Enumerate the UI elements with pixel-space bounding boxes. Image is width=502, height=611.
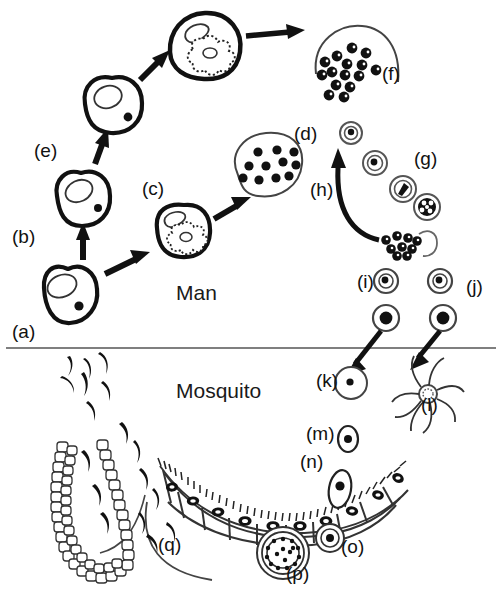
schizont-rbc — [414, 194, 440, 220]
arrow-schizont-to-merozoites-f — [246, 24, 305, 39]
stage-label-j: (j) — [466, 276, 483, 297]
liver-cell-e — [85, 77, 142, 133]
stage-label-c: (c) — [142, 178, 164, 199]
trophozoite-rbc — [363, 151, 387, 175]
erythrocytic-cycle-g — [340, 122, 440, 220]
stage-label-q: (q) — [158, 534, 181, 555]
salivary-gland — [51, 440, 134, 583]
merozoites-released-d — [235, 133, 302, 197]
arrow-a-to-c — [105, 250, 150, 274]
liver-schizont-top — [170, 13, 240, 79]
arrow-e-to-schizont — [140, 50, 170, 80]
stage-label-f: (f) — [382, 63, 400, 84]
ookinete-m — [338, 426, 358, 452]
stage-label-p: (p) — [286, 563, 309, 584]
host-label-mosquito: Mosquito — [176, 379, 261, 402]
gametocytes-group — [373, 269, 456, 331]
stage-label-e: (e) — [34, 140, 57, 161]
stage-label-d: (d) — [294, 123, 317, 144]
stage-label-l: (l) — [421, 394, 438, 415]
arrow-c-to-d — [214, 197, 251, 219]
stage-label-b: (b) — [12, 226, 35, 247]
stage-label-g: (g) — [414, 148, 437, 169]
liver-cell-b — [57, 172, 111, 226]
schizont-liver-cell-c — [157, 205, 210, 257]
malaria-life-cycle-figure: Man Mosquito (a) (b) (c) (d) (e) (f) (g)… — [0, 0, 502, 611]
stage-label-a: (a) — [12, 321, 35, 342]
merozoite-cluster-h — [381, 231, 437, 261]
merozoite-dots-f — [317, 43, 382, 103]
macrogametocyte-i-lower — [373, 305, 399, 331]
stage-label-o: (o) — [341, 536, 364, 557]
stage-label-n: (n) — [300, 451, 323, 472]
young-oocyst-o — [316, 524, 344, 552]
stage-label-i: (i) — [357, 271, 374, 292]
stage-label-k: (k) — [316, 370, 338, 391]
figure-canvas: Man Mosquito (a) (b) (c) (d) (e) (f) (g)… — [0, 0, 502, 611]
microgametocyte-j-upper — [428, 269, 452, 293]
macrogamete-k — [335, 367, 367, 399]
ring-stage-rbc — [340, 122, 362, 144]
host-label-man: Man — [176, 281, 217, 304]
macrogametocyte-i-upper — [374, 269, 398, 293]
merozoite-dots-d — [238, 145, 300, 184]
stage-label-m: (m) — [306, 423, 334, 444]
microgametocyte-j-lower — [430, 305, 456, 331]
infected-liver-cell-a — [44, 267, 97, 323]
penetrating-ookinete — [326, 468, 354, 509]
stage-label-h: (h) — [310, 179, 333, 200]
dividing-trophozoite-rbc — [390, 176, 416, 202]
